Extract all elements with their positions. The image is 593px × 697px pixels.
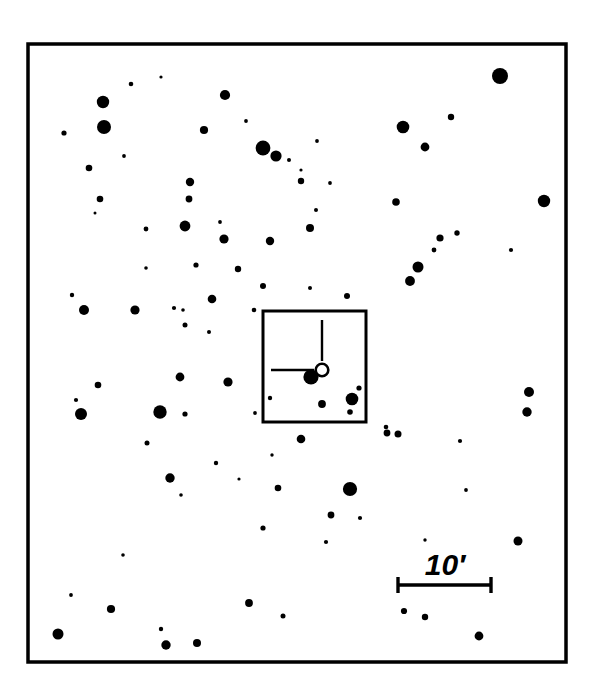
star-marker [384, 425, 389, 430]
star-marker [79, 305, 89, 315]
star-marker [193, 639, 201, 647]
star-marker [97, 196, 104, 203]
star-marker [219, 234, 228, 243]
star-marker [509, 248, 513, 252]
star-marker [347, 409, 353, 415]
star-marker [308, 286, 312, 290]
star-marker [97, 120, 111, 134]
star-marker [328, 512, 335, 519]
star-marker [61, 130, 66, 135]
star-marker [181, 308, 185, 312]
star-marker [183, 323, 188, 328]
star-marker [172, 306, 176, 310]
star-marker [298, 178, 304, 184]
star-marker [145, 441, 150, 446]
star-marker [165, 473, 174, 482]
star-marker [492, 68, 508, 84]
star-marker [218, 220, 222, 224]
star-marker [397, 121, 410, 134]
target-open-circle [316, 364, 329, 377]
star-marker [306, 224, 314, 232]
star-marker [268, 396, 272, 400]
star-marker [299, 168, 302, 171]
star-marker [422, 614, 428, 620]
star-marker [53, 629, 64, 640]
star-marker [266, 237, 274, 245]
star-marker [401, 608, 407, 614]
star-marker [159, 75, 162, 78]
star-marker [432, 248, 437, 253]
chart-background [0, 0, 593, 697]
star-marker [121, 553, 125, 557]
star-marker [344, 293, 350, 299]
star-marker [208, 295, 217, 304]
star-marker [454, 230, 459, 235]
star-marker [70, 293, 74, 297]
star-marker [358, 516, 362, 520]
star-marker [413, 262, 424, 273]
star-marker [97, 96, 109, 108]
star-marker [458, 439, 462, 443]
star-marker [207, 330, 211, 334]
star-marker [405, 276, 415, 286]
star-marker [244, 119, 248, 123]
star-marker [235, 266, 241, 272]
star-marker [423, 538, 426, 541]
star-marker [182, 411, 187, 416]
finder-chart: 10′ [0, 0, 593, 697]
star-marker [270, 453, 273, 456]
star-marker [161, 640, 170, 649]
star-marker [514, 537, 523, 546]
star-marker [214, 461, 218, 465]
star-marker [260, 525, 265, 530]
star-marker [436, 234, 443, 241]
star-marker [328, 181, 332, 185]
star-marker [144, 266, 148, 270]
star-marker [153, 405, 166, 418]
star-marker [186, 178, 194, 186]
star-marker [314, 208, 318, 212]
star-marker [180, 221, 191, 232]
star-marker [122, 154, 126, 158]
star-marker [448, 114, 454, 120]
star-marker [220, 90, 230, 100]
star-marker [287, 158, 291, 162]
star-marker [94, 212, 97, 215]
star-marker [421, 143, 430, 152]
star-marker [384, 430, 391, 437]
star-marker [200, 126, 208, 134]
star-marker [95, 382, 102, 389]
star-marker [74, 398, 78, 402]
star-marker [186, 196, 193, 203]
star-marker [69, 593, 73, 597]
star-marker [253, 411, 257, 415]
star-marker [179, 493, 183, 497]
star-marker [324, 540, 328, 544]
star-marker [237, 477, 240, 480]
star-marker [392, 198, 400, 206]
star-marker [129, 82, 134, 87]
star-marker [315, 139, 319, 143]
star-marker [318, 400, 326, 408]
star-marker [159, 627, 163, 631]
scale-bar-label: 10′ [425, 548, 467, 581]
star-marker [107, 605, 115, 613]
star-marker [176, 373, 185, 382]
star-marker [75, 408, 87, 420]
star-marker [395, 431, 402, 438]
star-marker [346, 393, 359, 406]
star-marker [464, 488, 468, 492]
star-marker [86, 165, 93, 172]
star-marker [475, 632, 484, 641]
star-marker [260, 283, 266, 289]
star-marker [538, 195, 550, 207]
star-marker [343, 482, 357, 496]
star-marker [297, 435, 306, 444]
star-marker [144, 227, 149, 232]
star-marker [270, 150, 281, 161]
star-marker [356, 385, 361, 390]
star-marker [245, 599, 253, 607]
star-marker [275, 485, 282, 492]
star-marker [193, 262, 198, 267]
star-marker [522, 407, 531, 416]
